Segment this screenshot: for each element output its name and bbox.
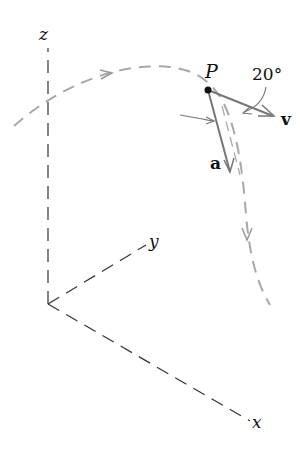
- tangent-line: [222, 106, 240, 175]
- angle-label: 20°: [252, 66, 282, 83]
- velocity-vector: [208, 90, 273, 116]
- z-axis-label: z: [39, 26, 48, 43]
- point-label: P: [205, 62, 218, 81]
- x-axis: [48, 304, 250, 421]
- acceleration-label: a: [210, 155, 221, 172]
- x-axis-label: x: [252, 414, 262, 431]
- point-p: [205, 87, 212, 94]
- trajectory-path: [14, 66, 270, 305]
- y-axis: [48, 245, 146, 304]
- y-axis-label: y: [149, 233, 159, 250]
- velocity-label: v: [281, 111, 291, 128]
